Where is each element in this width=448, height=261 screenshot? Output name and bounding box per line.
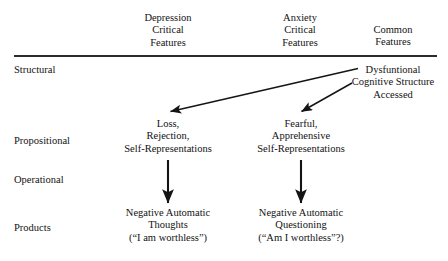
row-label-products: Products — [14, 222, 51, 234]
column-header-anxiety: Anxiety Critical Features — [282, 12, 318, 49]
cell-products-anxiety: Negative Automatic Questioning (“Am I wo… — [258, 207, 344, 244]
row-label-operational: Operational — [14, 174, 64, 186]
cell-propositional-anxiety: Fearful, Apprehensive Self-Representatio… — [257, 118, 344, 155]
column-header-depression: Depression Critical Features — [144, 12, 191, 49]
cognitive-model-diagram: Depression Critical Features Anxiety Cri… — [0, 0, 448, 261]
cell-propositional-depression: Loss, Rejection, Self-Representations — [124, 118, 211, 155]
cell-products-depression: Negative Automatic Thoughts (“I am worth… — [126, 207, 210, 244]
arrow-common-to-depression — [171, 69, 359, 112]
header-divider-rule — [14, 55, 437, 57]
row-label-structural: Structural — [14, 64, 55, 76]
cell-structural-common: Dysfuntional Cognitive Structure Accesse… — [352, 64, 435, 101]
column-header-common: Common Features — [373, 24, 412, 49]
arrow-common-to-anxiety — [302, 83, 353, 112]
row-label-propositional: Propositional — [14, 135, 70, 147]
